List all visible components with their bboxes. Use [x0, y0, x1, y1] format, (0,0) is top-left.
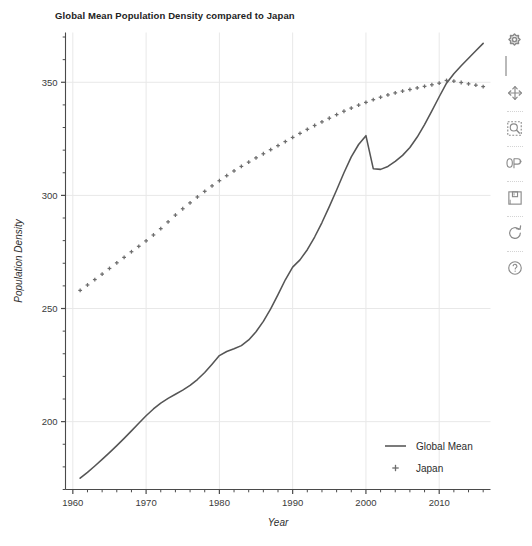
axis-spines: [66, 33, 491, 490]
legend-label: Global Mean: [416, 441, 473, 452]
zoom-icon[interactable]: [502, 115, 528, 141]
svg-text:350: 350: [42, 77, 58, 88]
figure-window: Global Mean Population Density compared …: [0, 0, 532, 546]
toolbar-divider: [507, 181, 523, 182]
svg-text:Year: Year: [268, 517, 289, 528]
toolbar-divider: [505, 56, 507, 76]
toolbar-divider: [507, 251, 523, 252]
subplots-icon[interactable]: [502, 150, 528, 176]
axis-titles: YearPopulation Density: [13, 218, 289, 527]
chart-legend: Global MeanJapan: [385, 441, 473, 474]
svg-text:250: 250: [42, 303, 58, 314]
axis-tick-labels: 200250300350196019701980199020002010: [42, 77, 450, 508]
svg-text:1970: 1970: [136, 497, 157, 508]
svg-text:300: 300: [42, 190, 58, 201]
svg-text:2000: 2000: [355, 497, 376, 508]
save-icon[interactable]: [502, 185, 528, 211]
svg-text:1960: 1960: [62, 497, 83, 508]
svg-text:1990: 1990: [282, 497, 303, 508]
svg-text:2010: 2010: [429, 497, 450, 508]
svg-text:1980: 1980: [209, 497, 230, 508]
axis-ticks: [61, 37, 483, 494]
data-series-layer: [78, 43, 485, 478]
toolbar-divider: [507, 216, 523, 217]
toolbar-divider: [507, 111, 523, 112]
toolbar-divider: [507, 146, 523, 147]
series-japan-markers: [78, 79, 485, 293]
gridlines: [66, 33, 491, 490]
refresh-icon[interactable]: [502, 220, 528, 246]
chart-canvas: 200250300350196019701980199020002010 Yea…: [0, 0, 497, 546]
legend-label: Japan: [416, 463, 443, 474]
help-icon[interactable]: [502, 255, 528, 281]
svg-text:200: 200: [42, 416, 58, 427]
series-global-mean-line: [80, 43, 483, 478]
chart-figure: Global Mean Population Density compared …: [0, 0, 497, 546]
home-icon[interactable]: [502, 26, 528, 52]
svg-text:Population Density: Population Density: [13, 218, 24, 302]
figure-toolbar: [497, 0, 532, 546]
move-icon[interactable]: [502, 80, 528, 106]
